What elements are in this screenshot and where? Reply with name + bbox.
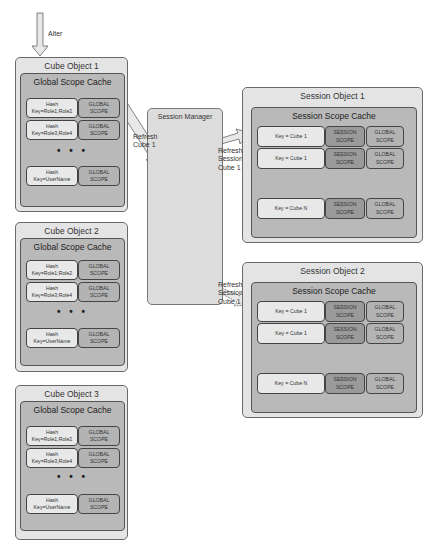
refresh-session-label-2: Refresh Session Cube 1 [218,281,243,306]
ellipsis: • • • [21,145,124,156]
global-scope-cell: GLOBAL SCOPE [78,448,120,468]
global-scope-cell: GLOBAL SCOPE [78,494,120,514]
global-scope-cache: Global Scope Cache Hash Key=Role1;Role2 … [20,238,125,366]
session-object-1: Session Object 1 Session Scope Cache Key… [242,87,423,243]
session-object-2: Session Object 2 Session Scope Cache Key… [242,262,423,418]
global-scope-cell: GLOBAL SCOPE [366,126,404,147]
key-cell: Key = Cube 1 [257,323,325,344]
cube-object-1: Cube Object 1 Global Scope Cache Hash Ke… [15,57,128,212]
session-scope-cell: SESSION SCOPE [325,198,365,219]
cube-object-3: Cube Object 3 Global Scope Cache Hash Ke… [15,385,128,540]
cube-object-2: Cube Object 2 Global Scope Cache Hash Ke… [15,222,128,372]
session-manager: Session Manager [147,108,223,305]
key-cell: Key = Cube N [257,198,325,219]
refresh-cube-label: Refresh Cube 1 [133,133,158,150]
hash-key-cell: Hash Key=Role1;Role2 [26,426,78,446]
global-scope-cell: GLOBAL SCOPE [366,148,404,169]
global-scope-cell: GLOBAL SCOPE [78,166,120,186]
session-scope-cell: SESSION SCOPE [325,301,365,322]
global-scope-cell: GLOBAL SCOPE [78,328,120,348]
global-scope-cache: Global Scope Cache Hash Key=Role1;Role2 … [20,401,125,531]
key-cell: Key = Cube 1 [257,301,325,322]
session-scope-cell: SESSION SCOPE [325,148,365,169]
session-scope-cache: Session Scope Cache Key = Cube 1 SESSION… [251,107,417,238]
alter-label: Alter [48,30,62,38]
cube-object-title: Cube Object 2 [16,226,127,236]
hash-key-cell: Hash Key=Role3;Role4 [26,282,78,302]
global-scope-cell: GLOBAL SCOPE [78,98,120,118]
cache-title: Session Scope Cache [252,286,416,296]
global-scope-cell: GLOBAL SCOPE [366,373,404,394]
global-scope-cell: GLOBAL SCOPE [78,282,120,302]
cache-title: Global Scope Cache [21,77,124,87]
ellipsis: • • • [21,471,124,482]
global-scope-cell: GLOBAL SCOPE [78,120,120,140]
hash-key-cell: Hash Key=Role3;Role4 [26,448,78,468]
hash-key-cell: Hash Key=UserName [26,166,78,186]
cache-title: Global Scope Cache [21,242,124,252]
key-cell: Key = Cube 1 [257,148,325,169]
hash-key-cell: Hash Key=Role1;Role2 [26,260,78,280]
cache-title: Session Scope Cache [252,111,416,121]
alter-arrow-icon [32,13,48,56]
session-scope-cache: Session Scope Cache Key = Cube 1 SESSION… [251,282,417,413]
session-scope-cell: SESSION SCOPE [325,323,365,344]
global-scope-cell: GLOBAL SCOPE [366,323,404,344]
hash-key-cell: Hash Key=Role1;Role2 [26,98,78,118]
global-scope-cell: GLOBAL SCOPE [78,426,120,446]
hash-key-cell: Hash Key=UserName [26,328,78,348]
session-manager-title: Session Manager [148,113,222,120]
ellipsis: • • • [21,306,124,317]
refresh-session-label-1: Refresh Session Cube 1 [218,147,243,172]
cube-object-title: Cube Object 3 [16,389,127,399]
key-cell: Key = Cube N [257,373,325,394]
hash-key-cell: Hash Key=Role3;Role4 [26,120,78,140]
global-scope-cell: GLOBAL SCOPE [366,301,404,322]
hash-key-cell: Hash Key=UserName [26,494,78,514]
cube-object-title: Cube Object 1 [16,61,127,71]
key-cell: Key = Cube 1 [257,126,325,147]
session-scope-cell: SESSION SCOPE [325,373,365,394]
cache-title: Global Scope Cache [21,405,124,415]
session-scope-cell: SESSION SCOPE [325,126,365,147]
global-scope-cell: GLOBAL SCOPE [366,198,404,219]
global-scope-cell: GLOBAL SCOPE [78,260,120,280]
session-object-title: Session Object 1 [243,91,422,101]
session-object-title: Session Object 2 [243,266,422,276]
global-scope-cache: Global Scope Cache Hash Key=Role1;Role2 … [20,73,125,207]
